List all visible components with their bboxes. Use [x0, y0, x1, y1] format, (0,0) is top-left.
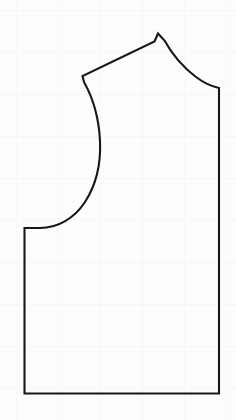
pattern-drawing — [0, 0, 236, 420]
pattern-canvas — [0, 0, 236, 420]
pattern-outline[interactable] — [25, 34, 220, 394]
